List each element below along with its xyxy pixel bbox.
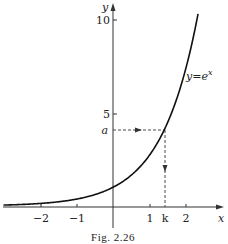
exponential-chart: 10 5 −2 −1 1 k 2 x y a y=ex Fig. 2.26 [0, 0, 228, 244]
k-arrow-icon [163, 165, 168, 172]
y-tick-label-5: 5 [103, 108, 110, 121]
x-tick-label-2: 2 [183, 212, 190, 225]
x-axis-arrow-icon [216, 205, 224, 210]
curve-label: y=ex [185, 68, 213, 83]
x-axis-label: x [218, 212, 225, 225]
x-tick-label-1: 1 [147, 212, 154, 225]
a-label: a [101, 124, 108, 137]
x-tick-label-m2: −2 [33, 212, 49, 225]
figure-caption: Fig. 2.26 [91, 231, 135, 243]
x-tick-label-m1: −1 [69, 212, 85, 225]
a-arrow-icon [135, 128, 142, 133]
y-axis-arrow-icon [111, 3, 116, 11]
exponential-curve [4, 14, 199, 205]
y-axis-label: y [101, 1, 109, 14]
x-tick-label-k: k [162, 212, 169, 225]
y-tick-label-10: 10 [96, 14, 110, 27]
